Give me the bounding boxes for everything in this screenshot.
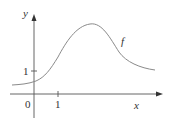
y-axis-label: y [22,7,28,19]
x-axis-label: x [133,99,139,111]
function-graph: y x f 0 1 1 [0,0,169,123]
curve-label-f: f [121,35,126,47]
y-tick-label-1: 1 [23,65,29,77]
origin-label: 0 [25,98,31,110]
x-axis-arrow-icon [156,92,163,97]
curve-f [12,24,155,85]
y-axis-arrow-icon [32,14,37,21]
x-tick-label-1: 1 [55,98,61,110]
